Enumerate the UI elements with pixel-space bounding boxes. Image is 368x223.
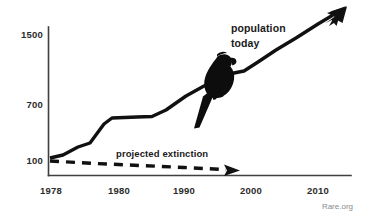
bird-tail: [194, 92, 214, 129]
y-tick-label-100: 100: [27, 155, 43, 166]
bird-silhouette-icon: [194, 52, 236, 129]
series-population: [50, 6, 347, 158]
y-tick-label-700: 700: [27, 99, 43, 110]
population-today-line-1: population: [231, 22, 286, 34]
projected-extinction-line: [50, 161, 226, 170]
x-tick-label-1980: 1980: [108, 185, 130, 196]
credit-attribution: Rare.org: [322, 202, 353, 211]
series-projected-extinction: [50, 161, 240, 176]
projected-extinction-arrowhead: [224, 164, 240, 176]
x-tick-label-2000: 2000: [240, 185, 262, 196]
y-axis-tick-labels: 1500 700 100: [21, 29, 43, 166]
annotation-population-today: population today: [231, 22, 286, 49]
population-line: [50, 15, 333, 158]
x-tick-label-2010: 2010: [307, 185, 329, 196]
projected-extinction-label: projected extinction: [116, 148, 208, 159]
chart-canvas: 1500 700 100 1978 1980 1990 2000 2010: [0, 0, 368, 223]
x-tick-label-1990: 1990: [173, 185, 195, 196]
x-axis-tick-labels: 1978 1980 1990 2000 2010: [40, 185, 329, 196]
population-growth-chart: 1500 700 100 1978 1980 1990 2000 2010: [0, 0, 368, 223]
y-tick-label-1500: 1500: [21, 29, 43, 40]
annotation-projected-extinction: projected extinction: [116, 148, 208, 159]
x-tick-label-1978: 1978: [40, 185, 62, 196]
population-today-line-2: today: [231, 37, 260, 49]
